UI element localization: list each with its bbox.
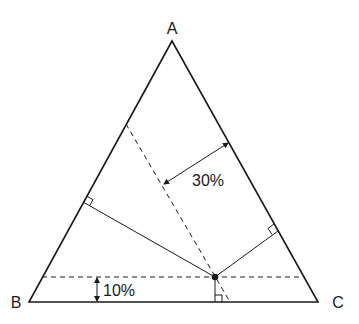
label-10-percent: 10%	[103, 282, 135, 299]
vertex-label-b: B	[11, 294, 22, 311]
composition-point	[212, 274, 219, 281]
triangle-outline	[29, 41, 318, 302]
ternary-diagram: A B C 30% 10%	[0, 0, 359, 324]
vertex-label-a: A	[167, 20, 178, 37]
right-angle-mark-ac	[268, 224, 274, 235]
label-30-percent: 30%	[192, 172, 224, 189]
right-angle-mark-bc	[215, 295, 222, 302]
vertex-label-c: C	[332, 294, 344, 311]
perpendicular-to-ab	[83, 202, 215, 277]
perpendicular-to-ac	[215, 231, 278, 277]
